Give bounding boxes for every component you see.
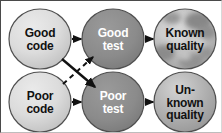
node-known-quality[interactable] (153, 9, 216, 69)
node-good-test[interactable] (82, 9, 144, 69)
edge-good-code-to-poor-test (62, 59, 95, 87)
node-poor-code[interactable] (9, 72, 71, 132)
node-poor-test[interactable] (82, 72, 144, 132)
diagram-canvas: Good code Good test Known quality Poor c… (0, 0, 222, 133)
node-unknown-quality[interactable] (154, 72, 216, 132)
diagram-graphics (1, 1, 222, 133)
